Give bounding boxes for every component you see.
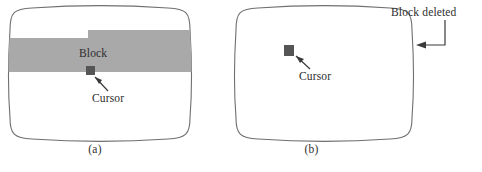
caption-a: (a) [0,143,190,155]
block-label: Block [79,47,107,59]
panel-b: Cursor Block deleted (b) [228,0,482,172]
cursor-square-b[interactable] [284,45,294,56]
block-deleted-label: Block deleted [391,6,457,18]
panel-a: Block Cursor (a) [0,0,210,172]
screen-outline-a [9,6,192,142]
cursor-square-a[interactable] [86,66,95,75]
figure-container: Block Cursor (a) Cursor Block deleted (b… [0,0,482,172]
cursor-label-a: Cursor [92,92,124,104]
caption-b: (b) [228,143,395,155]
leader-arrow-icon [416,20,445,49]
cursor-label-b: Cursor [299,70,331,82]
